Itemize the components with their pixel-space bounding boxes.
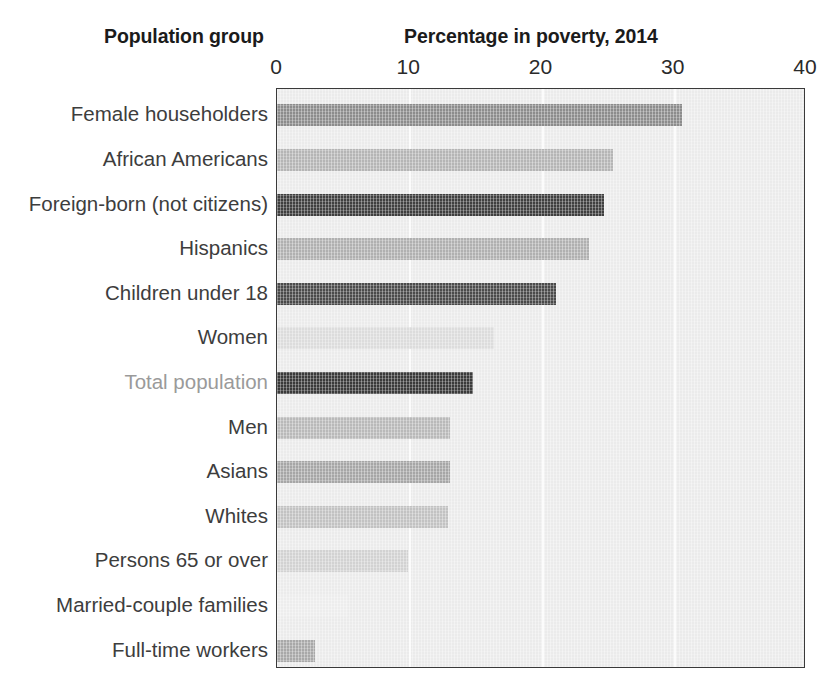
- bar-full-time-workers: [277, 640, 315, 662]
- category-label-married-couple-families: Married-couple families: [8, 594, 276, 616]
- category-label-foreign-born-not-citizens: Foreign-born (not citizens): [8, 193, 276, 215]
- x-tick-label-30: 30: [661, 55, 684, 79]
- category-label-asians: Asians: [8, 460, 276, 482]
- gridline-20: [542, 89, 544, 667]
- population-group-header: Population group: [104, 25, 264, 48]
- bar-hispanics: [277, 238, 589, 260]
- category-label-african-americans: African Americans: [8, 148, 276, 170]
- category-label-total-population: Total population: [8, 371, 276, 393]
- bar-women: [277, 327, 494, 349]
- category-label-women: Women: [8, 326, 276, 348]
- category-label-men: Men: [8, 416, 276, 438]
- gridline-30: [674, 89, 676, 667]
- x-tick-label-40: 40: [793, 55, 816, 79]
- category-label-children-under-18: Children under 18: [8, 282, 276, 304]
- category-label-female-householders: Female householders: [8, 103, 276, 125]
- bar-children-under-18: [277, 283, 556, 305]
- category-labels-column: Female householdersAfrican AmericansFore…: [0, 88, 276, 668]
- category-label-hispanics: Hispanics: [8, 237, 276, 259]
- category-label-full-time-workers: Full-time workers: [8, 639, 276, 661]
- bar-foreign-born-not-citizens: [277, 194, 604, 216]
- x-tick-label-0: 0: [270, 55, 282, 79]
- category-label-persons-65-or-over: Persons 65 or over: [8, 549, 276, 571]
- plot-area: [276, 88, 805, 668]
- bar-married-couple-families: [277, 595, 348, 617]
- x-tick-label-20: 20: [529, 55, 552, 79]
- bar-men: [277, 417, 450, 439]
- category-label-whites: Whites: [8, 505, 276, 527]
- bar-whites: [277, 506, 448, 528]
- bar-total-population: [277, 372, 473, 394]
- bar-persons-65-or-over: [277, 550, 408, 572]
- bar-african-americans: [277, 149, 613, 171]
- poverty-bar-chart-figure: Population group Percentage in poverty, …: [0, 0, 832, 697]
- bar-female-householders: [277, 104, 682, 126]
- chart-title: Percentage in poverty, 2014: [404, 25, 658, 48]
- x-tick-label-10: 10: [397, 55, 420, 79]
- bar-asians: [277, 461, 450, 483]
